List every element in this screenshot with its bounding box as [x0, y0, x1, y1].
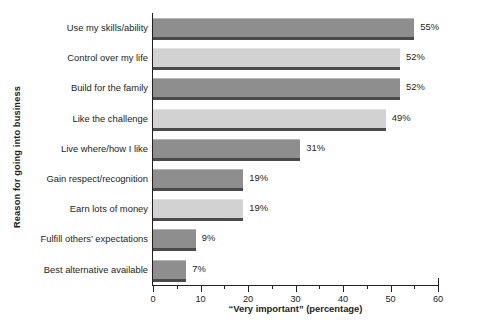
bar-shadow: [153, 158, 300, 161]
bar-body: [153, 139, 300, 159]
bar-shadow: [153, 248, 196, 251]
bar-shadow: [153, 37, 414, 40]
bar-value-label: 55%: [420, 21, 439, 32]
bar-1: [153, 18, 414, 40]
bar-body: [153, 260, 186, 280]
bar-value-label: 31%: [306, 142, 325, 153]
x-tick-minor: [319, 285, 320, 289]
x-axis-title: “Very important” (percentage): [153, 303, 438, 314]
bar-body: [153, 78, 400, 98]
bar-9: [153, 260, 186, 282]
bar-value-label: 52%: [406, 81, 425, 92]
category-label-column: Use my skills/abilityControl over my lif…: [18, 13, 148, 285]
x-tick-major: [438, 285, 439, 292]
x-tick-major: [153, 285, 154, 292]
x-tick-minor: [367, 285, 368, 289]
bar-body: [153, 109, 386, 129]
bar-chart-figure: Reason for going into business Use my sk…: [0, 0, 488, 327]
category-label: Fulfill others’ expectations: [18, 233, 148, 244]
plot-area: 55%52%52%49%31%19%19%9%7%0102030405060: [153, 13, 438, 285]
category-label: Live where/how I like: [18, 143, 148, 154]
bar-shadow: [153, 218, 243, 221]
bar-value-label: 49%: [392, 112, 411, 123]
bar-3: [153, 78, 400, 100]
x-tick-minor: [177, 285, 178, 289]
category-label: Earn lots of money: [18, 203, 148, 214]
bar-value-label: 52%: [406, 51, 425, 62]
category-label: Best alternative available: [18, 264, 148, 275]
bar-body: [153, 18, 414, 38]
x-tick-major: [343, 285, 344, 292]
category-label: Like the challenge: [18, 113, 148, 124]
category-label: Control over my life: [18, 52, 148, 63]
bar-6: [153, 169, 243, 191]
bar-shadow: [153, 128, 386, 131]
bar-value-label: 7%: [192, 263, 206, 274]
bar-value-label: 9%: [202, 232, 216, 243]
bar-8: [153, 229, 196, 251]
x-tick-minor: [414, 285, 415, 289]
x-tick-major: [296, 285, 297, 292]
bar-shadow: [153, 188, 243, 191]
bar-shadow: [153, 97, 400, 100]
x-tick-major: [391, 285, 392, 292]
category-label: Build for the family: [18, 82, 148, 93]
bar-7: [153, 199, 243, 221]
category-label: Use my skills/ability: [18, 22, 148, 33]
category-label: Gain respect/recognition: [18, 173, 148, 184]
x-tick-minor: [224, 285, 225, 289]
x-tick-minor: [272, 285, 273, 289]
bar-body: [153, 48, 400, 68]
x-tick-major: [248, 285, 249, 292]
x-tick-major: [201, 285, 202, 292]
bar-shadow: [153, 279, 186, 282]
bar-value-label: 19%: [249, 172, 268, 183]
bar-5: [153, 139, 300, 161]
bar-value-label: 19%: [249, 202, 268, 213]
bar-body: [153, 229, 196, 249]
bar-shadow: [153, 67, 400, 70]
bar-2: [153, 48, 400, 70]
bar-body: [153, 199, 243, 219]
bar-body: [153, 169, 243, 189]
bar-4: [153, 109, 386, 131]
